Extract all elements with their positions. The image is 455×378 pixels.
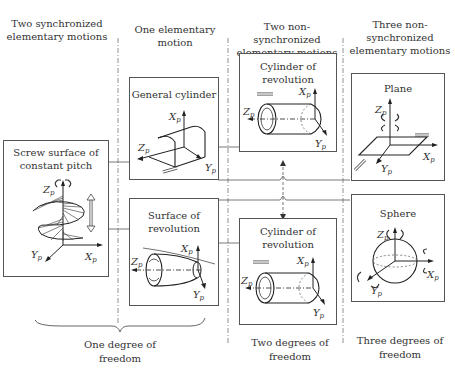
footer-three-degrees-line1: Three degrees of [350, 334, 450, 348]
screw-surface-illustration: Zp Xp Yp [3, 140, 109, 277]
general-cylinder-box: General cylinder Xp Zp Yp [129, 77, 219, 180]
footer-three-degrees-line2: freedom [350, 348, 450, 362]
footer-two-degrees: Two degrees of freedom [240, 336, 340, 364]
sphere-x-label: Xp [426, 269, 439, 282]
cylinder-top-illustration: Xp Zp Yp [239, 53, 337, 152]
footer-two-degrees-line1: Two degrees of [240, 336, 340, 350]
sphere-illustration: Zp Xp Yp [351, 194, 445, 302]
footer-one-degree-line2: freedom [70, 352, 170, 366]
footer-one-degree: One degree of freedom [70, 338, 170, 366]
cylinder-bottom-z-label: Zp [240, 275, 253, 288]
cylinder-bottom-y-label: Yp [313, 307, 325, 320]
screw-x-axis-label: Xp [84, 251, 97, 264]
cylinder-of-revolution-bottom-box: Cylinder of revolution Xp Zp Yp [239, 218, 337, 325]
footer-three-degrees: Three degrees of freedom [350, 334, 450, 362]
cylinder-top-z-label: Zp [242, 106, 255, 119]
plane-x-label: Xp [422, 151, 435, 164]
surface-of-revolution-illustration: Xp Zp Yp [129, 198, 219, 306]
cylinder-top-x-label: Xp [298, 86, 311, 99]
footer-one-degree-line1: One degree of [70, 338, 170, 352]
plane-z-label: Zp [374, 104, 387, 117]
general-cylinder-z-label: Zp [137, 142, 150, 155]
plane-y-label: Yp [381, 163, 393, 176]
cylinder-of-revolution-top-box: Cylinder of revolution Xp Zp Yp [239, 53, 337, 152]
screw-surface-box: Screw surface of constant pitch Zp Xp Yp [3, 140, 109, 277]
cylinder-bottom-x-label: Xp [296, 255, 309, 268]
cylinder-bottom-illustration: Xp Zp Yp [239, 218, 337, 325]
cylinder-top-y-label: Yp [315, 138, 327, 151]
sphere-z-label: Zp [376, 229, 389, 242]
plane-illustration: Zp Xp Yp [351, 73, 445, 181]
general-cylinder-y-label: Yp [205, 162, 217, 175]
general-cylinder-x-label: Xp [168, 111, 181, 124]
sphere-y-label: Yp [371, 285, 383, 298]
screw-z-axis-label: Zp [42, 184, 55, 197]
general-cylinder-illustration: Xp Zp Yp [129, 77, 219, 180]
sphere-box: Sphere Zp Xp Yp [351, 194, 445, 302]
surface-of-revolution-box: Surface of revolution Xp Zp Yp [129, 198, 219, 306]
surface-revolution-z-label: Zp [130, 256, 143, 269]
plane-box: Plane Zp Xp Yp [351, 73, 445, 181]
footer-two-degrees-line2: freedom [240, 350, 340, 364]
screw-y-axis-label: Yp [31, 249, 43, 262]
surface-revolution-y-label: Yp [193, 289, 205, 302]
surface-revolution-x-label: Xp [180, 243, 193, 256]
